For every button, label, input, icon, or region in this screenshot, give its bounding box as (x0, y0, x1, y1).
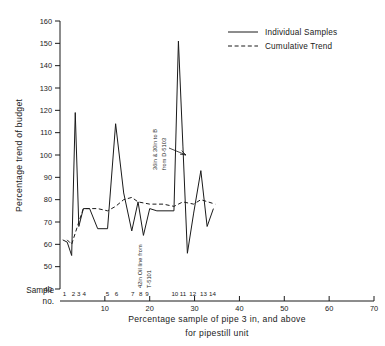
x-axis-title-line1: Percentage sample of pipe 3 in, and abov… (128, 314, 306, 324)
y-tick-label-160: 160 (40, 17, 52, 26)
sample-label-5: 5 (106, 290, 110, 297)
sample-number-labels: 1234567891011121314 (63, 290, 217, 297)
sample-label-6: 6 (115, 290, 119, 297)
chart-figure: 405060708090100110120130140150160 Percen… (0, 0, 385, 346)
sample-label-13: 13 (200, 290, 207, 297)
annotation-upper-line2: from D-5103 (161, 138, 167, 170)
y-axis-title: Percentage trend of budget (14, 98, 24, 212)
data-series-group (63, 41, 216, 255)
x-tick-label-50: 50 (280, 304, 288, 313)
x-axis: 10203040506070 Percentage sample of pipe… (60, 296, 378, 338)
series-individual-samples (63, 41, 214, 255)
sample-no-caption: Sample no. (26, 286, 54, 306)
x-tick-label-60: 60 (325, 304, 333, 313)
chart-legend: Individual Samples Cumulative Trend (228, 28, 337, 51)
y-tick-label-110: 110 (40, 128, 52, 137)
sample-label-7: 7 (131, 290, 135, 297)
sample-label-12: 12 (189, 290, 196, 297)
sample-label-3: 3 (77, 290, 81, 297)
annotation-upper-line1: 36in & 30in to B (152, 129, 158, 170)
y-tick-label-60: 60 (44, 240, 52, 249)
sample-label-14: 14 (209, 290, 216, 297)
y-tick-label-140: 140 (40, 61, 52, 70)
x-axis-title-line2: for pipestill unit (185, 328, 249, 338)
annotation-lower-line2: T-5101 (146, 270, 152, 288)
sample-label-4: 4 (82, 290, 86, 297)
y-tick-label-90: 90 (44, 173, 52, 182)
y-tick-label-50: 50 (44, 262, 52, 271)
sample-label-2: 2 (72, 290, 76, 297)
legend-label-cumulative-trend: Cumulative Trend (265, 42, 333, 51)
y-tick-label-80: 80 (44, 195, 52, 204)
x-tick-label-30: 30 (190, 304, 198, 313)
sample-label-1: 1 (63, 290, 67, 297)
y-tick-label-150: 150 (40, 39, 52, 48)
x-axis-ticks: 10203040506070 (101, 296, 378, 313)
sample-label-9: 9 (145, 290, 149, 297)
y-axis-ticks: 405060708090100110120130140150160 (40, 17, 60, 294)
y-tick-label-120: 120 (40, 106, 52, 115)
annotation-lower: 42in Oil line from T-5101 (137, 244, 152, 288)
sample-caption-line1: Sample (26, 286, 54, 295)
y-axis: 405060708090100110120130140150160 Percen… (14, 17, 60, 294)
annotation-lower-line1: 42in Oil line from (137, 244, 143, 288)
x-tick-label-40: 40 (235, 304, 243, 313)
x-tick-label-70: 70 (370, 304, 378, 313)
y-tick-label-70: 70 (44, 218, 52, 227)
y-tick-label-130: 130 (40, 84, 52, 93)
sample-caption-line2: no. (43, 297, 54, 306)
annotation-upper: 36in & 30in to B from D-5103 (152, 129, 186, 170)
legend-label-individual-samples: Individual Samples (265, 28, 337, 37)
y-tick-label-100: 100 (40, 151, 52, 160)
chart-canvas: 405060708090100110120130140150160 Percen… (0, 0, 385, 346)
sample-label-11: 11 (180, 290, 187, 297)
x-tick-label-20: 20 (146, 304, 154, 313)
sample-label-8: 8 (139, 290, 143, 297)
x-tick-label-10: 10 (101, 304, 109, 313)
sample-label-10: 10 (171, 290, 178, 297)
